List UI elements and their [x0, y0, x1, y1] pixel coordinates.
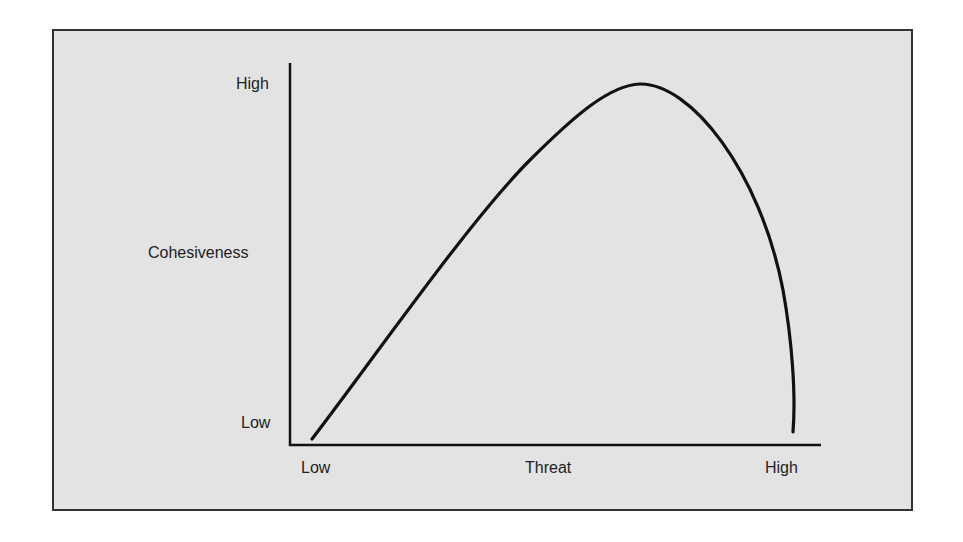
x-axis-title: Threat — [525, 459, 571, 477]
y-tick-low: Low — [241, 414, 270, 432]
curve-line — [312, 84, 794, 439]
x-tick-high: High — [765, 459, 798, 477]
y-axis-title: Cohesiveness — [148, 244, 249, 262]
x-tick-low: Low — [301, 459, 330, 477]
y-tick-high: High — [236, 75, 269, 93]
chart-plot — [0, 0, 963, 542]
